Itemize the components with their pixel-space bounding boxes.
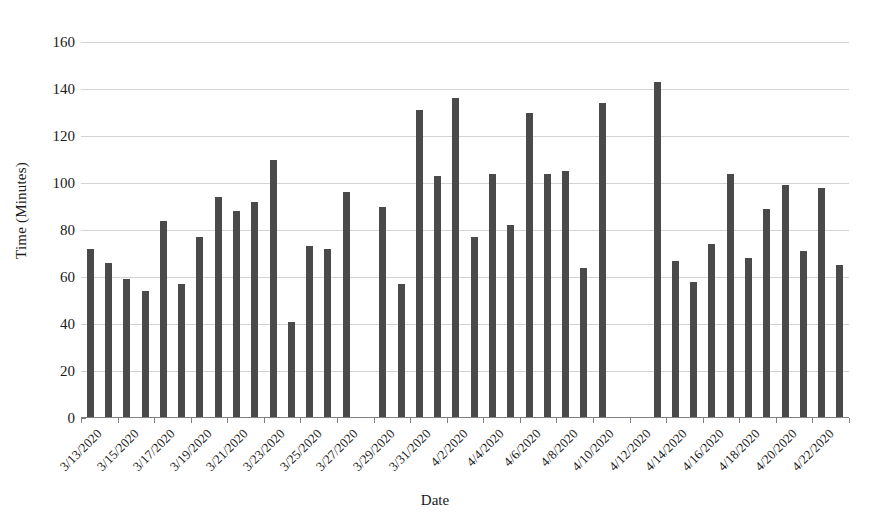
plot-area <box>81 42 849 418</box>
y-tick-label: 100 <box>15 176 75 191</box>
bar <box>544 174 551 418</box>
bar <box>87 249 94 418</box>
bar <box>782 185 789 418</box>
bar <box>580 268 587 418</box>
bar <box>142 291 149 418</box>
bar <box>489 174 496 418</box>
bar <box>215 197 222 418</box>
y-tick-label: 120 <box>15 129 75 144</box>
bar <box>507 225 514 418</box>
y-tick-label: 140 <box>15 82 75 97</box>
bar <box>379 207 386 419</box>
bar <box>818 188 825 418</box>
bar <box>270 160 277 419</box>
bar <box>690 282 697 418</box>
x-axis-title: Date <box>0 492 870 509</box>
bar <box>233 211 240 418</box>
bar <box>251 202 258 418</box>
bar <box>836 265 843 418</box>
bar <box>398 284 405 418</box>
y-axis-ticks: 020406080100120140160 <box>6 42 75 418</box>
y-tick-label: 20 <box>15 364 75 379</box>
bar <box>599 103 606 418</box>
bar <box>324 249 331 418</box>
bar <box>160 221 167 418</box>
y-tick-label: 160 <box>15 35 75 50</box>
bar <box>763 209 770 418</box>
y-tick-label: 40 <box>15 317 75 332</box>
bar <box>471 237 478 418</box>
bar <box>526 113 533 419</box>
bar <box>800 251 807 418</box>
y-tick-label: 80 <box>15 223 75 238</box>
bar <box>105 263 112 418</box>
bar <box>178 284 185 418</box>
bar <box>343 192 350 418</box>
bar <box>562 171 569 418</box>
y-tick-label: 60 <box>15 270 75 285</box>
bar-chart: Time (Minutes) 020406080100120140160 3/1… <box>0 0 870 528</box>
bar <box>727 174 734 418</box>
bar <box>288 322 295 418</box>
bar <box>654 82 661 418</box>
bar <box>434 176 441 418</box>
bar-series <box>81 42 849 418</box>
bar <box>452 98 459 418</box>
x-axis-labels: 3/13/20203/15/20203/17/20203/19/20203/21… <box>0 418 870 493</box>
bar <box>416 110 423 418</box>
